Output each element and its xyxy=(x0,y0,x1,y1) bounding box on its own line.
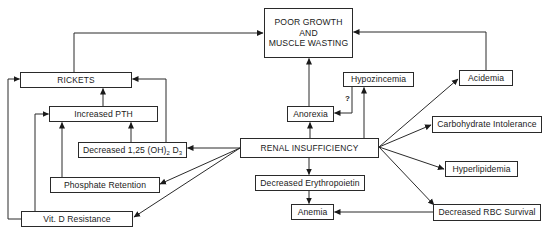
edge-rickets-to-poor-growth xyxy=(74,33,263,72)
hypozincemia-label: Hypozincemia xyxy=(351,75,406,84)
node-decreased-rbc-survival: Decreased RBC Survival xyxy=(433,204,541,221)
node-vitd-resistance: Vit. D Resistance xyxy=(21,211,133,227)
edge-renal-to-carb xyxy=(379,125,431,147)
acidemia-label: Acidemia xyxy=(468,74,504,83)
poor-growth-line-2: AND xyxy=(299,28,317,39)
node-increased-pth: Increased PTH xyxy=(49,106,158,122)
hyperlipidemia-label: Hyperlipidemia xyxy=(452,165,510,174)
node-decreased-erythropoietin: Decreased Erythropoietin xyxy=(255,175,365,191)
anemia-label: Anemia xyxy=(298,208,328,217)
node-renal-insufficiency: RENAL INSUFFICIENCY xyxy=(240,138,379,158)
poor-growth-line-1: POOR GROWTH xyxy=(275,17,343,28)
edge-renal-to-acidemia xyxy=(379,79,458,147)
anorexia-label: Anorexia xyxy=(293,110,328,119)
decreased-vitamin-d-label: Decreased 1,25 (OH)2 D3 xyxy=(83,146,182,155)
decreased-vitamin-d-mid: D xyxy=(170,145,179,155)
decreased-vitamin-d-prefix: Decreased 1,25 (OH) xyxy=(83,145,167,155)
node-poor-growth: POOR GROWTH AND MUSCLE WASTING xyxy=(264,8,353,58)
node-phosphate-retention: Phosphate Retention xyxy=(50,177,160,193)
rickets-label: RICKETS xyxy=(57,76,95,84)
node-hyperlipidemia: Hyperlipidemia xyxy=(445,161,518,177)
phosphate-retention-label: Phosphate Retention xyxy=(64,181,146,190)
node-anorexia: Anorexia xyxy=(287,106,334,122)
edge-vitd-res-to-rickets xyxy=(8,79,21,219)
vitd-resistance-label: Vit. D Resistance xyxy=(43,215,110,224)
node-rickets: RICKETS xyxy=(20,72,132,88)
decreased-rbc-survival-label: Decreased RBC Survival xyxy=(438,208,535,217)
edge-acidemia-to-poor-growth xyxy=(354,32,487,70)
renal-insufficiency-label: RENAL INSUFFICIENCY xyxy=(261,144,359,152)
node-decreased-vitamin-d: Decreased 1,25 (OH)2 D3 xyxy=(78,142,187,158)
carbohydrate-intolerance-label: Carbohydrate Intolerance xyxy=(437,120,536,129)
uncertain-link-label: ? xyxy=(345,94,350,103)
subscript-3: 3 xyxy=(179,150,182,156)
increased-pth-label: Increased PTH xyxy=(74,110,133,119)
node-anemia: Anemia xyxy=(291,204,334,220)
node-acidemia: Acidemia xyxy=(459,70,513,86)
edge-renal-to-rbc xyxy=(379,147,434,205)
decreased-erythropoietin-label: Decreased Erythropoietin xyxy=(260,179,359,188)
node-hypozincemia: Hypozincemia xyxy=(343,72,414,87)
poor-growth-line-3: MUSCLE WASTING xyxy=(269,38,348,49)
node-carbohydrate-intolerance: Carbohydrate Intolerance xyxy=(432,116,542,133)
edge-vitd-res-to-pth xyxy=(35,114,49,211)
